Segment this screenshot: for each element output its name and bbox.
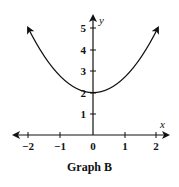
- y-tick-label: 3: [81, 65, 87, 77]
- y-axis-label: y: [98, 14, 104, 26]
- y-tick-label: 4: [81, 44, 87, 56]
- x-tick-label: 0: [90, 140, 96, 152]
- graph: −2 −1 0 1 2 1 2 3 4 5 y x: [0, 0, 179, 187]
- graph-caption: Graph B: [0, 160, 179, 175]
- x-tick-label: 1: [122, 140, 128, 152]
- y-tick-label: 5: [81, 22, 87, 34]
- x-axis-label: x: [159, 118, 165, 130]
- y-tick-label: 2: [81, 87, 87, 99]
- y-tick-label: 1: [81, 108, 87, 120]
- x-tick-label: −2: [22, 140, 34, 152]
- x-tick-label: −1: [54, 140, 66, 152]
- x-tick-label: 2: [153, 140, 159, 152]
